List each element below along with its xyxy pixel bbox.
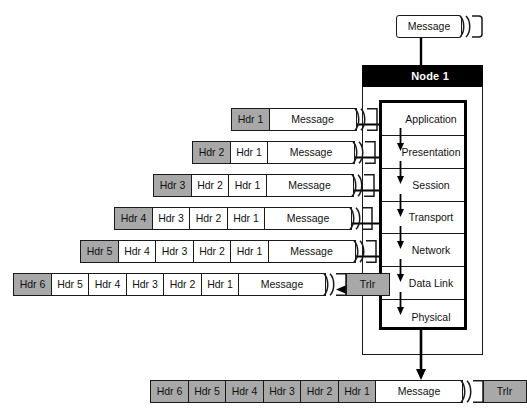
layer-label: Application — [389, 113, 456, 125]
frame-cell-header: Hdr 4 — [225, 380, 264, 403]
packet-cell-payload: Message — [267, 141, 355, 164]
packet-cell-header: Hdr 1 — [230, 240, 269, 263]
layer-data-link[interactable]: Data Link — [382, 267, 464, 300]
packet-tail-icon — [352, 141, 376, 164]
layer-network[interactable]: Network — [382, 234, 464, 267]
frame-cell-trailer: Trlr — [483, 380, 527, 403]
packet-cell-header: Hdr 1 — [201, 273, 240, 296]
packet-cell-header: Hdr 3 — [126, 273, 165, 296]
message-tail-icon — [459, 15, 483, 38]
packet-cell-header: Hdr 2 — [191, 174, 230, 197]
frame-cell-header: Hdr 2 — [300, 380, 339, 403]
frame-cell-header: Hdr 3 — [263, 380, 302, 403]
layer-presentation[interactable]: Presentation — [382, 136, 464, 169]
layer-physical[interactable]: Physical — [382, 300, 464, 333]
packet-cell-header: Hdr 2 — [192, 141, 231, 164]
packet-cell-header: Hdr 1 — [230, 141, 269, 164]
packet-tail-icon — [323, 273, 347, 296]
layer-session[interactable]: Session — [382, 169, 464, 202]
packet-cell-header: Hdr 4 — [88, 273, 127, 296]
osi-layer-stack: Application Presentation Session — [379, 100, 467, 330]
packet-tail-icon — [351, 174, 375, 197]
packet-cell-header: Hdr 2 — [163, 273, 202, 296]
packet-cell-payload: Message — [266, 174, 354, 197]
transmitted-frame-row: Hdr 6 Hdr 5 Hdr 4 Hdr 3 Hdr 2 Hdr 1 Mess… — [150, 380, 525, 403]
flow-down-arrow-icon — [396, 226, 405, 250]
frame-cell-header: Hdr 5 — [188, 380, 227, 403]
frame-cell-payload: Message — [375, 380, 463, 403]
flow-down-arrow-icon — [396, 259, 405, 283]
packet-tail-icon — [353, 240, 377, 263]
packet-cell-header: Hdr 3 — [153, 174, 192, 197]
packet-cell-header: Hdr 2 — [189, 207, 228, 230]
flow-down-arrow-icon — [396, 292, 405, 316]
frame-cell-header: Hdr 6 — [150, 380, 189, 403]
packet-cell-header: Hdr 1 — [227, 207, 266, 230]
node-title-bar: Node 1 — [362, 65, 483, 87]
flow-down-arrow-icon — [396, 194, 405, 218]
frame-cell-header: Hdr 1 — [338, 380, 377, 403]
packet-cell-header: Hdr 3 — [155, 240, 194, 263]
flow-down-arrow-icon — [396, 128, 405, 152]
layer-application[interactable]: Application — [382, 103, 464, 136]
source-message-box: Message — [396, 15, 483, 38]
packet-cell-header: Hdr 5 — [80, 240, 119, 263]
packet-tail-icon — [354, 108, 378, 131]
packet-row-network: Hdr 5 Hdr 4 Hdr 3 Hdr 2 Hdr 1 Message — [80, 240, 377, 263]
packet-cell-payload: Message — [269, 108, 357, 131]
packet-cell-header: Hdr 2 — [193, 240, 232, 263]
packet-cell-header: Hdr 1 — [228, 174, 267, 197]
source-message-cell: Message — [396, 15, 462, 38]
packet-cell-header: Hdr 1 — [231, 108, 270, 131]
packet-row-application: Hdr 1 Message — [231, 108, 378, 131]
packet-cell-header: Hdr 3 — [152, 207, 191, 230]
packet-row-presentation: Hdr 2 Hdr 1 Message — [192, 141, 376, 164]
frame-tail-icon — [460, 380, 484, 403]
packet-cell-trailer: Trlr — [346, 273, 390, 296]
packet-tail-icon — [349, 207, 373, 230]
packet-cell-header: Hdr 4 — [118, 240, 157, 263]
physical-to-wire-arrow — [414, 330, 428, 384]
packet-cell-payload: Message — [264, 207, 352, 230]
packet-cell-header: Hdr 6 — [13, 273, 52, 296]
flow-down-arrow-icon — [396, 161, 405, 185]
packet-cell-payload: Message — [268, 240, 356, 263]
layer-transport[interactable]: Transport — [382, 202, 464, 235]
packet-row-session: Hdr 3 Hdr 2 Hdr 1 Message — [153, 174, 375, 197]
packet-row-data-link: Hdr 6 Hdr 5 Hdr 4 Hdr 3 Hdr 2 Hdr 1 Mess… — [13, 273, 388, 296]
node-title-label: Node 1 — [411, 70, 483, 82]
packet-cell-payload: Message — [238, 273, 326, 296]
packet-cell-header: Hdr 5 — [51, 273, 90, 296]
packet-cell-header: Hdr 4 — [114, 207, 153, 230]
packet-row-transport: Hdr 4 Hdr 3 Hdr 2 Hdr 1 Message — [114, 207, 373, 230]
